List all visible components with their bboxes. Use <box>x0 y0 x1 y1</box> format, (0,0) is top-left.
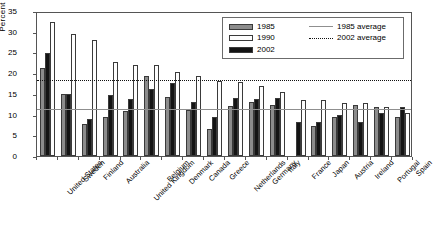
x-axis-tick-mark <box>161 157 162 160</box>
y-axis-tick-label: 15 <box>0 91 17 99</box>
legend-item: 1985 average <box>309 21 386 33</box>
x-axis-tick-mark <box>99 157 100 160</box>
legend-swatch-icon <box>229 35 253 41</box>
bar-group <box>183 13 204 156</box>
bar-1990 <box>342 103 347 156</box>
x-axis-tick-mark <box>287 157 288 160</box>
legend-series-column: 198519902002 <box>229 21 275 56</box>
x-axis-tick-mark <box>412 157 413 160</box>
legend-item-label: 2002 <box>257 46 275 54</box>
x-axis-tick-mark <box>391 157 392 160</box>
x-axis-tick-label: Japan <box>330 158 351 179</box>
y-axis-tick-label: 5 <box>0 132 17 140</box>
legend-item: 1985 <box>229 21 275 33</box>
x-axis-tick-mark <box>120 157 121 160</box>
x-axis-tick-label: Finland <box>102 158 126 182</box>
legend-item: 2002 <box>229 44 275 56</box>
y-axis-tick-label: 25 <box>0 49 17 57</box>
bar-1990 <box>363 103 368 156</box>
bar-1990 <box>259 86 264 156</box>
x-axis-tick-mark <box>182 157 183 160</box>
x-axis-tick-mark <box>328 157 329 160</box>
legend-line-icon <box>309 26 333 27</box>
bar-group <box>79 13 100 156</box>
bar-1990 <box>175 72 180 156</box>
reference-line-2002-average <box>37 80 411 81</box>
y-axis-tick-label: 0 <box>0 153 17 161</box>
bar-group <box>58 13 79 156</box>
legend-lines-column: 1985 average2002 average <box>309 21 386 44</box>
bar-group <box>162 13 183 156</box>
x-axis-tick-mark <box>370 157 371 160</box>
x-axis-tick-label: Ireland <box>373 158 396 181</box>
bar-1990 <box>384 107 389 156</box>
y-axis-tick-label: 35 <box>0 8 17 16</box>
x-axis-tick-mark <box>308 157 309 160</box>
bar-group <box>37 13 58 156</box>
x-axis-tick-mark <box>224 157 225 160</box>
bar-1990 <box>217 81 222 156</box>
x-axis-tick-mark <box>349 157 350 160</box>
reference-line-1985-average <box>37 109 411 110</box>
bar-1990 <box>92 40 97 156</box>
x-axis-tick-label: Austria <box>352 158 375 181</box>
x-axis-tick-mark <box>57 157 58 160</box>
legend-swatch-icon <box>229 24 253 30</box>
bar-1990 <box>50 22 55 156</box>
bar-group <box>100 13 121 156</box>
bar-1990 <box>280 92 285 156</box>
y-axis-tick-label: 30 <box>0 29 17 37</box>
legend-item-label: 2002 average <box>337 34 386 42</box>
x-axis-tick-mark <box>266 157 267 160</box>
legend-item-label: 1985 average <box>337 23 386 31</box>
legend-item: 2002 average <box>309 33 386 45</box>
legend-line-icon <box>309 38 333 39</box>
bar-1990 <box>405 113 410 157</box>
x-axis-tick-label: France <box>310 158 333 181</box>
y-axis-tick-label: 20 <box>0 70 17 78</box>
bar-1990 <box>71 34 76 156</box>
x-axis-tick-mark <box>78 157 79 160</box>
legend-item-label: 1990 <box>257 34 275 42</box>
legend-swatch-icon <box>229 47 253 53</box>
x-axis-labels: United StatesSwedenFinlandAustraliaUnite… <box>36 158 412 233</box>
x-axis-tick-mark <box>245 157 246 160</box>
bar-group <box>121 13 142 156</box>
bar-group <box>141 13 162 156</box>
x-axis-tick-label: Australia <box>124 158 151 185</box>
x-axis-tick-mark <box>36 157 37 160</box>
bar-1990 <box>301 100 306 156</box>
x-axis-tick-mark <box>140 157 141 160</box>
y-axis-tick-label: 10 <box>0 112 17 120</box>
legend: 198519902002 1985 average2002 average <box>222 17 404 59</box>
legend-item-label: 1985 <box>257 23 275 31</box>
legend-item: 1990 <box>229 33 275 45</box>
x-axis-tick-mark <box>203 157 204 160</box>
bar-1990 <box>196 76 201 156</box>
bar-1990 <box>238 82 243 156</box>
